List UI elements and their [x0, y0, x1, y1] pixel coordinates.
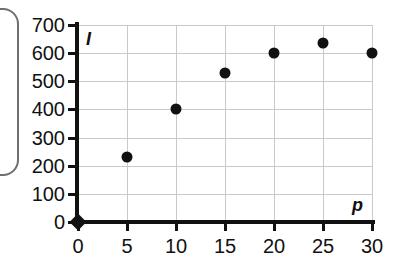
y-tick-label: 300: [5, 128, 65, 148]
y-tick-label: 700: [5, 15, 65, 35]
y-tick-label: 0: [5, 212, 65, 232]
data-point: [269, 48, 280, 59]
x-tick-label: 15: [205, 236, 245, 256]
data-point: [122, 152, 133, 163]
x-tick-label: 5: [107, 236, 147, 256]
y-tick-mark: [68, 80, 79, 83]
gridline-vertical: [323, 25, 324, 222]
x-tick-label: 20: [254, 236, 294, 256]
x-tick-label: 25: [303, 236, 343, 256]
plot-area: [78, 25, 372, 222]
x-tick-label: 0: [58, 236, 98, 256]
gridline-vertical: [176, 25, 177, 222]
y-tick-mark: [68, 137, 79, 140]
y-axis-title: I: [86, 30, 91, 48]
data-point: [367, 48, 378, 59]
gridline-vertical: [127, 25, 128, 222]
x-tick-label: 30: [352, 236, 392, 256]
y-tick-label: 400: [5, 99, 65, 119]
data-point: [318, 38, 329, 49]
gridline-vertical: [225, 25, 226, 222]
data-point: [220, 67, 231, 78]
y-tick-label: 500: [5, 71, 65, 91]
x-tick-mark: [273, 222, 276, 231]
y-tick-mark: [68, 193, 79, 196]
x-tick-mark: [322, 222, 325, 231]
y-tick-label: 600: [5, 43, 65, 63]
y-tick-label: 200: [5, 156, 65, 176]
x-tick-mark: [224, 222, 227, 231]
y-tick-mark: [68, 24, 79, 27]
x-axis-title: p: [352, 196, 363, 214]
y-tick-mark: [68, 52, 79, 55]
y-tick-label: 100: [5, 184, 65, 204]
x-tick-mark: [175, 222, 178, 231]
x-tick-label: 10: [156, 236, 196, 256]
x-tick-mark: [371, 222, 374, 231]
y-tick-mark: [68, 108, 79, 111]
x-tick-mark: [126, 222, 129, 231]
chart-figure: 0100200300400500600700 051015202530 I p: [0, 0, 408, 268]
data-point: [171, 104, 182, 115]
y-tick-mark: [68, 165, 79, 168]
